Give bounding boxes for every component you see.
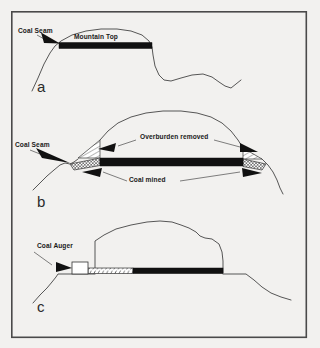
figure-root: Coal Seam Mountain Top a [0, 0, 320, 348]
panel-c-coal-seam [133, 268, 223, 274]
panel-b: Coal Seam Overburden removed Coal mined … [15, 111, 283, 210]
panel-c-right-terrain [223, 274, 291, 300]
panel-c-highwall-outline [95, 221, 223, 273]
panel-a-terrain-outline [32, 29, 241, 91]
panel-c-augered-section [88, 268, 133, 274]
panel-b-overburden-arrowhead-left [98, 143, 116, 152]
panel-c: Coal Auger c [33, 221, 291, 315]
panel-letter-c: c [37, 298, 45, 315]
panel-letter-a: a [37, 78, 46, 95]
panel-b-original-profile [100, 111, 243, 148]
panel-b-coal-mined-leader-left [103, 172, 127, 181]
panel-c-auger-arrowhead [56, 262, 72, 272]
figure-frame [12, 12, 307, 338]
panel-a: Coal Seam Mountain Top a [18, 27, 241, 95]
panel-b-overburden-leader-left [118, 140, 136, 146]
panel-c-auger-machine [72, 262, 88, 274]
panel-a-coal-seam [59, 43, 152, 49]
label-coal-auger: Coal Auger [37, 242, 73, 250]
panel-b-coal-mined-leader-right [180, 172, 240, 181]
panel-b-overburden-left [78, 140, 100, 158]
label-coal-seam-a: Coal Seam [18, 27, 53, 34]
panel-b-coal-mined-left [70, 158, 100, 170]
label-coal-seam-b: Coal Seam [15, 141, 50, 148]
panel-b-coal-mined-arrowhead-left [82, 168, 102, 177]
panel-b-overburden-arrowhead-right [240, 143, 258, 152]
mining-diagram-svg: Coal Seam Mountain Top a [0, 0, 320, 348]
panel-b-overburden-leader-right [214, 140, 240, 147]
label-coal-mined: Coal mined [129, 176, 166, 183]
panel-b-coal-mined-right [243, 159, 266, 170]
label-mountain-top: Mountain Top [74, 33, 118, 41]
label-overburden-removed: Overburden removed [140, 133, 209, 140]
panel-c-auger-leader [34, 252, 52, 265]
panel-letter-b: b [37, 193, 45, 210]
panel-a-coal-seam-arrowhead [41, 33, 60, 44]
panel-b-coal-seam-arrowhead [36, 148, 70, 163]
panel-b-coal-seam [100, 158, 243, 166]
